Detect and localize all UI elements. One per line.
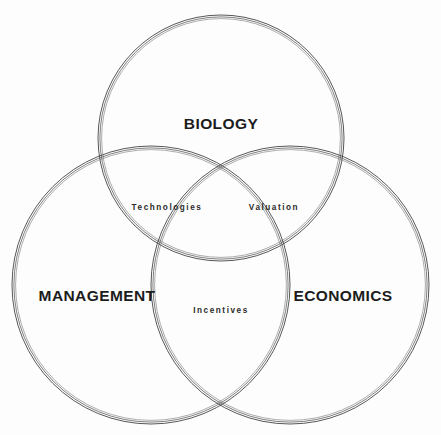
set-label-management: MANAGEMENT	[39, 287, 156, 305]
set-label-biology: BIOLOGY	[184, 115, 258, 133]
intersection-label-technologies: Technologies	[132, 203, 203, 212]
intersection-label-valuation: Valuation	[249, 203, 299, 212]
venn-circles-group	[0, 0, 441, 435]
set-label-economics: ECONOMICS	[293, 287, 392, 305]
circle-biology	[98, 15, 344, 261]
intersection-label-incentives: Incentives	[193, 306, 249, 315]
venn-diagram-canvas: BIOLOGY MANAGEMENT ECONOMICS Technologie…	[0, 0, 441, 435]
